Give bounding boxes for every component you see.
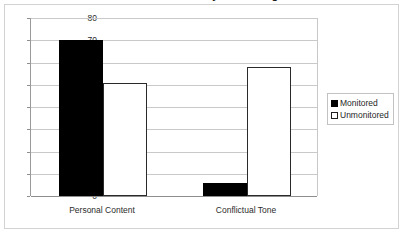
y-tick-mark-0 — [27, 196, 30, 197]
legend-item-unmonitored: Unmonitored — [331, 109, 389, 121]
gridline-80 — [31, 18, 317, 19]
legend-item-monitored: Monitored — [331, 97, 389, 109]
chart-title-clipped: Differences in Disclosure by Monitoring … — [0, 0, 403, 4]
bar-monitored-conflictual-tone — [203, 183, 247, 196]
plot-area — [30, 18, 318, 196]
gridline-0 — [31, 196, 317, 197]
x-category-label-personal-content: Personal Content — [69, 205, 135, 215]
x-category-label-conflictual-tone: Conflictual Tone — [216, 205, 276, 215]
legend-swatch-monitored-icon — [331, 100, 338, 107]
chart-title-text: Differences in Disclosure by Monitoring … — [0, 0, 403, 1]
legend-label: Unmonitored — [340, 109, 389, 121]
legend-label: Monitored — [340, 97, 378, 109]
bar-unmonitored-personal-content — [103, 83, 147, 196]
legend-swatch-unmonitored-icon — [331, 112, 338, 119]
bar-unmonitored-conflictual-tone — [247, 67, 291, 196]
bar-monitored-personal-content — [59, 40, 103, 196]
chart-legend: MonitoredUnmonitored — [327, 93, 394, 125]
bar-chart-figure: Differences in Disclosure by Monitoring … — [0, 0, 403, 233]
